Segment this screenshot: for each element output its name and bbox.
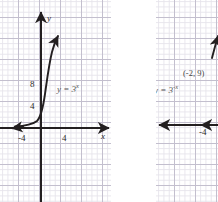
equation-exponent-right: -x xyxy=(173,83,178,90)
y-axis-label-left: y xyxy=(47,14,51,23)
graph-panel-left: y x -4 4 4 8 y = 3x xyxy=(0,0,111,202)
figure-canvas: y x -4 4 4 8 y = 3x xyxy=(0,0,218,202)
equation-exponent-left: x xyxy=(76,82,79,89)
axes-and-curve-right xyxy=(156,0,218,202)
equation-base-right: y = 3 xyxy=(156,85,173,95)
axes-and-curve-left xyxy=(0,0,111,202)
equation-label-right: y = 3-x xyxy=(156,84,178,95)
x-tick-neg4-left: -4 xyxy=(18,134,26,143)
point-label-right: (-2, 9) xyxy=(183,69,204,78)
y-tick-8-left: 8 xyxy=(30,80,35,89)
x-tick-neg4-right: -4 xyxy=(199,128,207,137)
graph-panel-right: -4 (-2, 9) y = 3-x xyxy=(156,0,218,202)
curve-exponential-growth xyxy=(12,36,58,128)
y-tick-4-left: 4 xyxy=(30,102,35,111)
equation-label-left: y = 3x xyxy=(57,83,79,94)
x-axis-label-left: x xyxy=(101,132,105,141)
equation-base-left: y = 3 xyxy=(57,84,76,94)
x-tick-4-left: 4 xyxy=(62,134,67,143)
curve-exponential-decay xyxy=(212,36,218,58)
